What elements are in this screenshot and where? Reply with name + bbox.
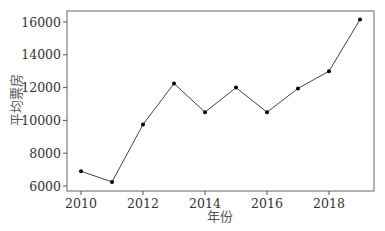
- data-point: [296, 86, 300, 90]
- data-point: [141, 123, 145, 127]
- x-tick-label: 2010: [65, 196, 97, 211]
- data-point: [110, 180, 114, 184]
- data-point: [327, 69, 331, 73]
- x-tick-label: 2012: [127, 196, 159, 211]
- y-axis: 6000800010000120001400016000: [21, 15, 67, 194]
- data-point: [234, 86, 238, 90]
- y-tick-label: 8000: [29, 146, 61, 161]
- x-axis-label: 年份: [207, 209, 233, 224]
- data-point: [172, 82, 176, 86]
- x-axis: 20102012201420162018: [65, 191, 345, 211]
- y-tick-label: 12000: [21, 80, 61, 95]
- x-tick-label: 2016: [251, 196, 283, 211]
- line-chart: 6000800010000120001400016000 20102012201…: [0, 0, 385, 231]
- data-point: [358, 18, 362, 22]
- data-point: [265, 110, 269, 114]
- data-series: [79, 18, 362, 184]
- x-tick-label: 2018: [313, 196, 345, 211]
- y-tick-label: 6000: [29, 179, 61, 194]
- plot-frame: [67, 11, 374, 191]
- data-point: [79, 169, 83, 173]
- y-tick-label: 14000: [21, 47, 61, 62]
- y-axis-label: 平均票房: [9, 74, 24, 126]
- y-tick-label: 10000: [21, 113, 61, 128]
- y-tick-label: 16000: [21, 15, 61, 30]
- data-point: [203, 110, 207, 114]
- series-line: [81, 20, 360, 182]
